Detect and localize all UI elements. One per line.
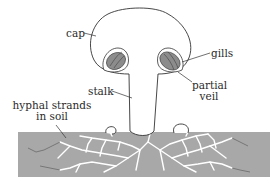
mushroom-diagram: cap gills stalk partial veil hyphal stra… [0, 0, 279, 184]
label-partial-veil-line2: veil [192, 91, 226, 102]
label-hyphal-line2: in soil [12, 111, 92, 122]
mushroom-illustration [0, 0, 279, 184]
label-cap: cap [66, 28, 85, 39]
partial-veil-leader [178, 72, 192, 82]
button-bulb-left [106, 127, 116, 134]
label-gills: gills [211, 48, 233, 59]
button-bulb-right [174, 124, 189, 133]
label-partial-veil: partial veil [192, 80, 226, 102]
soil [18, 132, 270, 177]
label-stalk: stalk [88, 86, 114, 97]
label-hyphal-strands: hyphal strands in soil [12, 100, 92, 122]
